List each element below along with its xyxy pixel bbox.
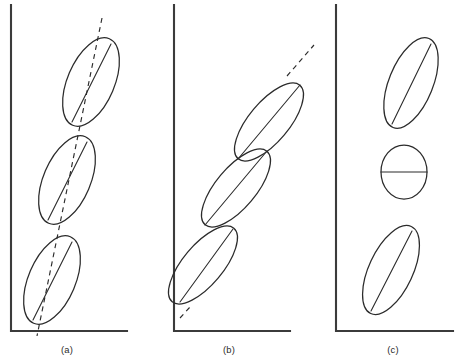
ellipse-b-bottom-group — [157, 215, 249, 314]
ellipse-b-middle-major-axis — [205, 151, 267, 225]
panel-c-axes — [336, 5, 453, 331]
ellipse-a-bottom-major-axis — [33, 242, 72, 320]
ellipse-b-top-major-axis — [238, 85, 300, 159]
panel-a: (a) — [11, 5, 131, 355]
panel-b-axes — [174, 5, 290, 331]
ellipse-a-top-major-axis — [72, 44, 111, 122]
panel-b-label: (b) — [223, 344, 235, 355]
ellipse-b-bottom-major-axis — [180, 229, 233, 302]
ellipse-a-bottom — [12, 228, 92, 333]
ellipse-a-middle-group — [27, 128, 107, 233]
ellipse-c-bottom — [351, 217, 431, 323]
ellipse-a-top — [51, 30, 131, 135]
ellipse-c-bottom-group — [351, 217, 431, 323]
ellipse-c-top-major-axis — [392, 44, 431, 124]
panel-c: (c) — [336, 5, 453, 355]
ellipse-b-middle-group — [190, 138, 282, 237]
ellipse-a-middle — [27, 128, 107, 233]
panel-a-axes — [11, 5, 127, 331]
ellipse-panels-figure: (a) (b) — [0, 0, 460, 363]
ellipse-c-top-group — [373, 30, 450, 135]
ellipse-a-middle-major-axis — [48, 142, 87, 220]
ellipse-a-top-group — [51, 30, 131, 135]
panel-b: (b) — [157, 5, 315, 355]
ellipse-b-bottom — [157, 215, 249, 314]
figure-container: (a) (b) — [0, 0, 460, 363]
panel-b-trend-dashed-upper — [287, 45, 314, 76]
panel-a-label: (a) — [61, 344, 73, 355]
panel-b-trend-dashed-lower — [180, 307, 190, 318]
ellipse-c-bottom-major-axis — [371, 231, 412, 311]
panel-c-label: (c) — [387, 344, 399, 355]
ellipse-c-middle-group — [381, 145, 427, 199]
ellipse-b-top-group — [223, 72, 315, 171]
ellipse-a-bottom-group — [12, 228, 92, 333]
ellipse-c-top — [373, 30, 450, 135]
